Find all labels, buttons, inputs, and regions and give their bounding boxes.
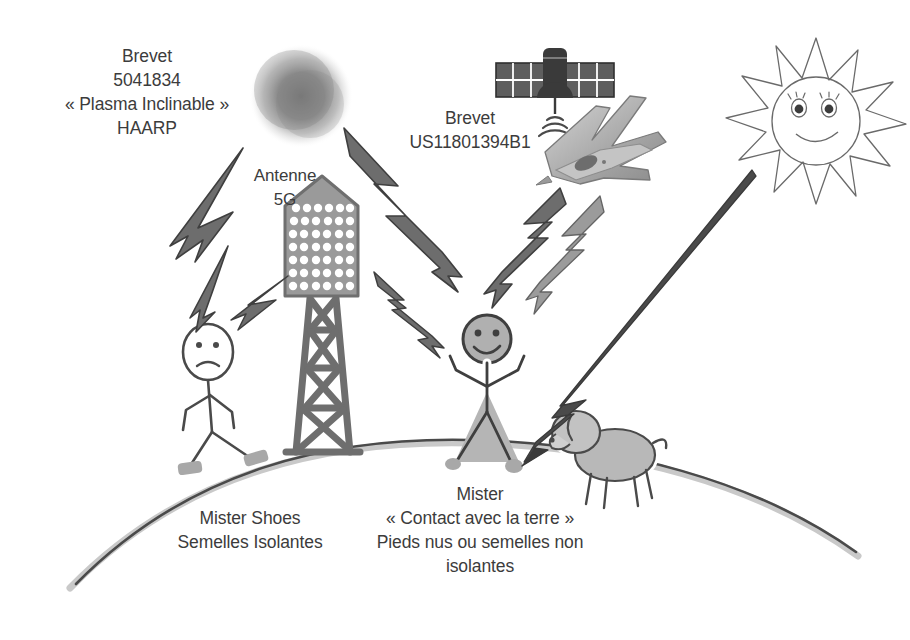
illustration-canvas: Brevet 5041834 « Plasma Inclinable » HAA…: [0, 0, 910, 640]
lightning-bolt-antenna-to-right: [374, 272, 444, 358]
happy-stick-figure-barefoot: [445, 313, 524, 473]
label-antenne-5g: Antenne 5G: [210, 164, 360, 212]
lightning-bolt-satellite-to-right: [484, 188, 566, 308]
sad-stick-figure-with-shoes: [177, 324, 269, 476]
label-brevet-us: Brevet US11801394B1: [370, 106, 570, 154]
label-mister-contact: Mister « Contact avec la terre » Pieds n…: [330, 482, 630, 578]
label-brevet-haarp: Brevet 5041834 « Plasma Inclinable » HAA…: [22, 44, 272, 140]
